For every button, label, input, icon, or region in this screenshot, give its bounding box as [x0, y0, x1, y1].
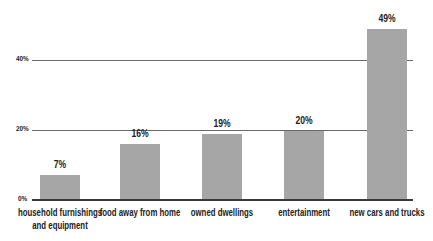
- value-label-entertainment: 20%: [281, 114, 328, 126]
- bar-entertainment: [284, 131, 324, 199]
- y-tick-20: 20%: [16, 124, 29, 133]
- value-label-owned-dwellings: 19%: [199, 117, 246, 129]
- gridline-40: [32, 60, 413, 61]
- x-label-household-furnishings: household furnishings and equipment: [17, 206, 103, 232]
- bar-chart: 40% 20% 0% 7% 16% 19% 20% 49% household …: [0, 0, 433, 241]
- value-label-household-furnishings: 7%: [37, 158, 84, 170]
- bar-new-cars-and-trucks: [367, 29, 407, 199]
- bar-food-away-from-home: [120, 144, 160, 199]
- x-label-food-away-from-home: food away from home: [97, 206, 183, 219]
- bar-owned-dwellings: [202, 134, 242, 199]
- x-axis-baseline: [32, 199, 413, 201]
- x-label-entertainment: entertainment: [261, 206, 347, 219]
- x-label-owned-dwellings: owned dwellings: [179, 206, 265, 219]
- value-label-new-cars-and-trucks: 49%: [364, 12, 411, 24]
- value-label-food-away-from-home: 16%: [117, 127, 164, 139]
- x-label-new-cars-and-trucks: new cars and trucks: [344, 206, 430, 219]
- bar-household-furnishings: [40, 175, 80, 199]
- y-tick-0: 0%: [18, 194, 27, 203]
- y-tick-40: 40%: [16, 54, 29, 63]
- gridline-20: [32, 130, 413, 131]
